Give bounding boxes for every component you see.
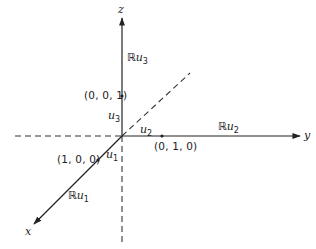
negative-x-dashed-axis (122, 73, 190, 136)
point-label-1-0-0: (1, 0, 0) (57, 154, 100, 165)
z-axis-label: z (118, 4, 124, 15)
y-axis-label: y (304, 130, 310, 141)
coordinate-diagram (0, 0, 316, 249)
line-label-r-u1: ℝu1 (68, 190, 89, 204)
x-axis-label: x (25, 226, 31, 237)
point-label-0-1-0: (0, 1, 0) (154, 141, 197, 152)
line-label-r-u2: ℝu2 (218, 121, 239, 135)
point-label-0-0-1: (0, 0, 1) (84, 90, 127, 101)
unit-vector-u1-label: u1 (106, 149, 118, 163)
unit-vector-u2-label: u2 (140, 124, 152, 138)
line-label-r-u3: ℝu3 (127, 52, 148, 66)
point-0-1-0 (160, 134, 163, 137)
unit-vector-u3-label: u3 (108, 110, 120, 124)
